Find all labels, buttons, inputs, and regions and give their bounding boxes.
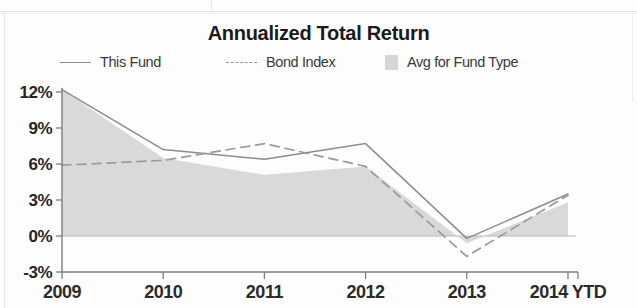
y-axis-tick-label: 3%	[28, 191, 52, 210]
plot-area: 12%9%6%3%0%-3% 200920102011201220132014 …	[0, 0, 637, 308]
y-axis-tick-label: -3%	[23, 263, 52, 282]
x-axis-tick-label: 2010	[144, 282, 183, 302]
x-axis-tick-label: 2011	[246, 282, 284, 302]
x-axis-tick-label: 2009	[43, 282, 82, 302]
y-axis-tick-label: 0%	[28, 227, 52, 246]
x-axis-tick-label: 2013	[448, 282, 487, 302]
x-axis-tick-label: 2012	[347, 282, 386, 302]
area-series-avg-for-fund-type	[62, 90, 568, 244]
annualized-total-return-chart: Annualized Total Return This Fund Bond I…	[0, 0, 637, 308]
y-axis-tick-label: 6%	[28, 155, 52, 174]
y-axis-tick-labels: 12%9%6%3%0%-3%	[19, 83, 52, 282]
area-series-layer	[62, 90, 568, 244]
x-axis-tick-label: 2014 YTD	[530, 282, 607, 302]
y-axis-tick-label: 12%	[19, 83, 52, 102]
y-axis-tick-label: 9%	[28, 119, 52, 138]
x-axis-tick-labels: 200920102011201220132014 YTD	[43, 282, 607, 302]
